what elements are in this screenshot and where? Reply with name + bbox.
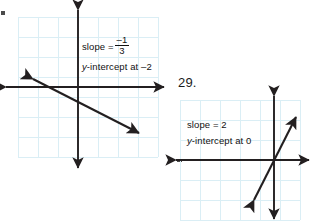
problem-number-29: 29. [178, 75, 197, 90]
coordinate-graph-right [175, 95, 321, 222]
slope-label-left: slope = [82, 40, 114, 54]
problem-left: slope = –1 3 y-intercept at –2 [0, 0, 180, 180]
annotation-left: slope = –1 3 y-intercept at –2 [82, 36, 152, 74]
intercept-text-right: -intercept at 0 [192, 135, 252, 146]
intercept-statement-right: y-intercept at 0 [187, 134, 251, 148]
slope-fraction-left: –1 3 [115, 35, 130, 56]
graph-svg-right [175, 95, 321, 222]
coordinate-graph-left [0, 0, 180, 180]
slope-statement-left: slope = –1 3 [82, 36, 152, 57]
intercept-statement-left: y-intercept at –2 [82, 60, 152, 74]
slope-label-right: slope = 2 [187, 119, 227, 130]
problem-right: 29. [175, 70, 321, 222]
intercept-text-left: -intercept at –2 [87, 61, 152, 72]
fraction-numerator-left: –1 [115, 35, 130, 45]
worksheet-canvas: slope = –1 3 y-intercept at –2 29. [0, 0, 321, 222]
annotation-right: slope = 2 y-intercept at 0 [187, 118, 251, 148]
slope-statement-right: slope = 2 [187, 118, 251, 132]
graph-svg-left [0, 0, 180, 180]
fraction-denominator-left: 3 [117, 46, 126, 56]
